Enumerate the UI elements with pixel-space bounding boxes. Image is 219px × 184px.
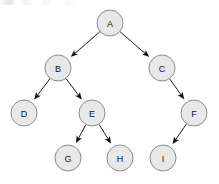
tree-node-b[interactable]: B [45, 55, 71, 81]
node-circle-a[interactable] [97, 10, 123, 36]
edge-c-to-f [170, 79, 184, 98]
tree-node-i[interactable]: I [150, 145, 176, 171]
edge-b-to-d [35, 79, 50, 99]
node-circle-b[interactable] [45, 55, 71, 81]
tree-node-h[interactable]: H [107, 145, 133, 171]
node-circle-e[interactable] [79, 100, 105, 126]
node-circle-f[interactable] [181, 100, 207, 126]
tree-node-c[interactable]: C [149, 55, 175, 81]
tree-node-a[interactable]: A [97, 10, 123, 36]
node-circle-h[interactable] [107, 145, 133, 171]
tree-node-f[interactable]: F [181, 100, 207, 126]
diagram-canvas: ABCDEFGHI [0, 0, 219, 184]
node-circle-g[interactable] [55, 145, 81, 171]
edge-b-to-e [66, 79, 81, 99]
edge-e-to-g [76, 125, 85, 142]
tree-node-e[interactable]: E [79, 100, 105, 126]
edge-a-to-c [120, 32, 148, 56]
node-circle-d[interactable] [11, 100, 37, 126]
node-circle-i[interactable] [150, 145, 176, 171]
node-circle-c[interactable] [149, 55, 175, 81]
edge-layer [35, 32, 186, 143]
edge-e-to-h [99, 124, 110, 142]
edge-f-to-i [173, 124, 186, 143]
edge-a-to-b [72, 32, 100, 56]
tree-node-d[interactable]: D [11, 100, 37, 126]
tree-node-g[interactable]: G [55, 145, 81, 171]
binary-tree-graphic: ABCDEFGHI [0, 0, 219, 184]
